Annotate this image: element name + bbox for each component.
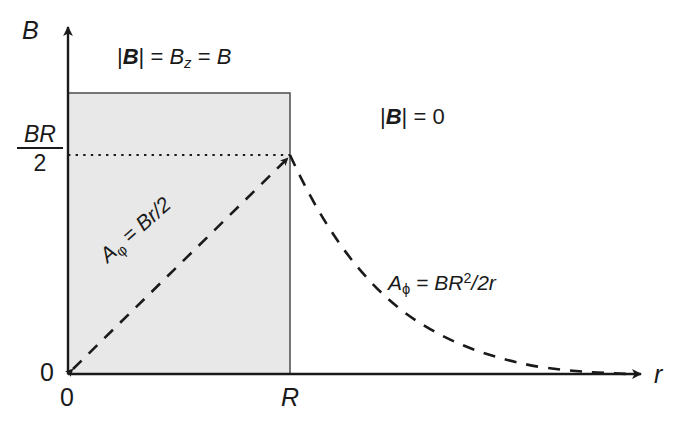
x-axis-radius-tick: R (281, 383, 299, 412)
a-phi-outside-symbol: A (388, 271, 402, 294)
fraction-denominator: 2 (16, 149, 64, 176)
a-phi-outside-curve (290, 155, 628, 374)
field-bz-subscript: z (184, 54, 191, 71)
plot-canvas (0, 0, 685, 432)
magnetic-field-vector-potential-diagram: B r 0 0 R BR 2 |B| = Bz = B |B| = 0 Aφ =… (0, 0, 685, 432)
field-vector-symbol-outside: B (386, 104, 402, 129)
field-bz-symbol: B (169, 44, 184, 69)
field-outside-value: | = 0 (402, 104, 445, 129)
field-vector-symbol: B (123, 44, 139, 69)
field-inside-value: B (217, 44, 232, 69)
y-axis-label: B (22, 16, 39, 45)
a-phi-outside-label: Aϕ = BR2/2r (388, 270, 496, 297)
a-phi-outside-subscript: ϕ (402, 281, 410, 297)
a-phi-outside-denominator: /2r (471, 271, 496, 294)
x-axis-origin-tick: 0 (60, 383, 74, 412)
field-inside-equals: = (192, 44, 217, 69)
fraction-numerator: BR (16, 122, 64, 147)
x-axis-label: r (654, 360, 662, 389)
y-axis-origin-tick: 0 (40, 358, 54, 387)
uniform-field-region (68, 93, 290, 374)
a-phi-outside-equals: = (410, 271, 434, 294)
field-outside-label: |B| = 0 (380, 104, 445, 130)
abs-bar-close-eq: | = (139, 44, 170, 69)
y-axis-br-over-2-tick: BR 2 (16, 122, 64, 177)
a-phi-outside-numerator: BR (434, 271, 463, 294)
field-inside-label: |B| = Bz = B (117, 44, 231, 71)
